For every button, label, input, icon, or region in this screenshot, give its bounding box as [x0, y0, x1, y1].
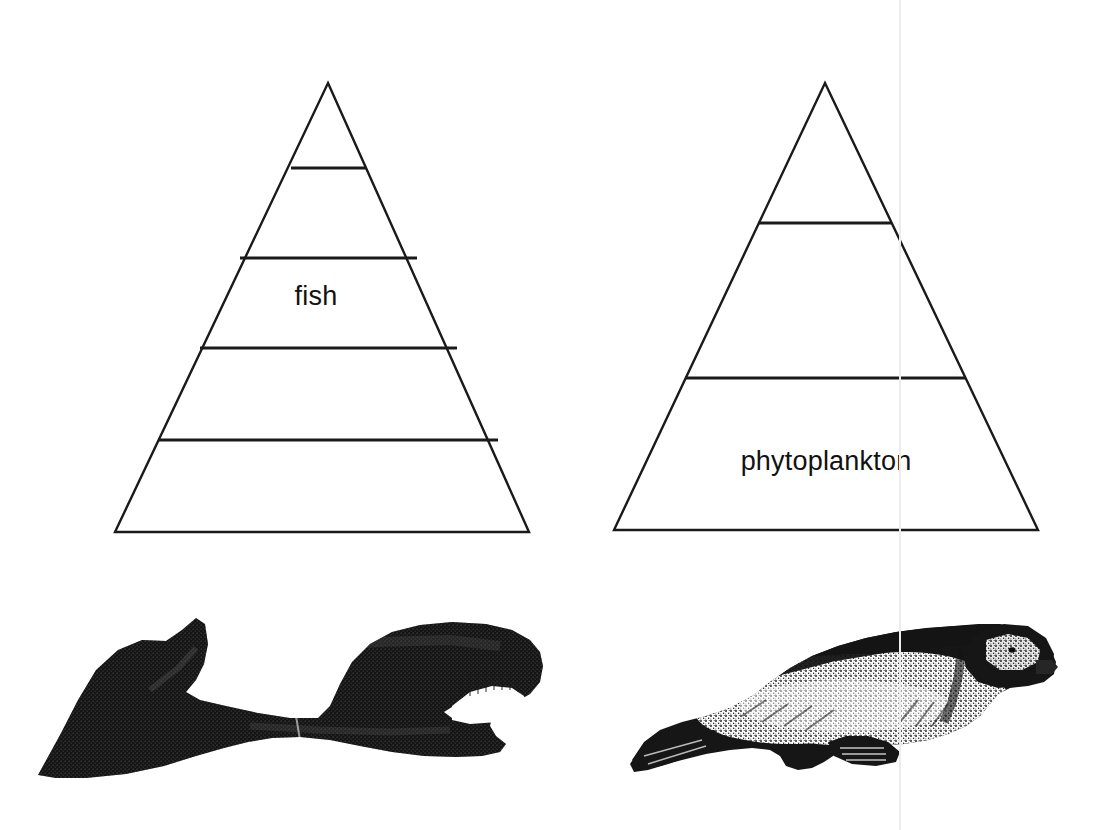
- left-pyramid-level-label-fish: fish: [295, 281, 338, 311]
- left-pyramid: fish: [115, 83, 529, 532]
- trophic-pyramid-figure: fish phytoplankton: [0, 0, 1097, 830]
- right-pyramid: phytoplankton: [614, 83, 1038, 530]
- figure-canvas: fish phytoplankton: [0, 0, 1097, 830]
- whale-engraving: [20, 605, 560, 795]
- seal-engraving: [620, 615, 1070, 780]
- right-pyramid-level-label-phytoplankton: phytoplankton: [741, 446, 912, 476]
